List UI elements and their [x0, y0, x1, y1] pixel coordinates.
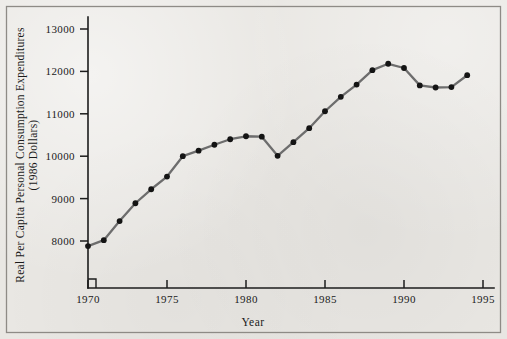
- data-point: [196, 148, 202, 154]
- x-axis-ticks: [88, 280, 483, 288]
- data-point: [306, 125, 312, 131]
- data-point: [133, 200, 139, 206]
- data-point: [338, 94, 344, 100]
- y-tick-label: 11000: [46, 108, 75, 120]
- data-point: [385, 61, 391, 67]
- data-point: [212, 142, 218, 148]
- x-tick-label: 1995: [471, 293, 495, 305]
- y-axis-ticks: [80, 29, 88, 241]
- y-axis-tick-labels: 8000900010000110001200013000: [46, 23, 76, 247]
- svg-text:(1986 Dollars): (1986 Dollars): [27, 120, 40, 191]
- data-point: [401, 65, 407, 71]
- data-point: [164, 174, 170, 180]
- data-point: [180, 153, 186, 159]
- svg-text:Real Per Capita Personal Consu: Real Per Capita Personal Consumption Exp…: [14, 27, 27, 283]
- axis-break-symbol: [88, 279, 96, 288]
- data-point: [417, 82, 423, 88]
- y-tick-label: 13000: [46, 23, 76, 35]
- data-point: [243, 133, 249, 139]
- data-point: [433, 85, 439, 91]
- y-tick-label: 8000: [51, 235, 75, 247]
- data-point: [354, 82, 360, 88]
- data-point: [322, 108, 328, 114]
- y-tick-label: 9000: [51, 193, 75, 205]
- x-axis-tick-labels: 197019751980198519901995: [76, 293, 495, 305]
- data-point: [464, 72, 470, 78]
- data-point: [259, 134, 265, 140]
- data-point: [117, 218, 123, 224]
- x-tick-label: 1970: [76, 293, 100, 305]
- data-point: [148, 186, 154, 192]
- data-point: [275, 153, 281, 159]
- data-point: [370, 67, 376, 73]
- y-tick-label: 12000: [46, 65, 76, 77]
- data-point: [85, 243, 91, 249]
- x-tick-label: 1985: [313, 293, 337, 305]
- x-tick-label: 1975: [155, 293, 179, 305]
- line-chart: 8000900010000110001200013000 19701975198…: [0, 0, 507, 339]
- x-tick-label: 1980: [234, 293, 258, 305]
- figure-container: 8000900010000110001200013000 19701975198…: [0, 0, 507, 339]
- data-series-markers: [85, 61, 470, 249]
- y-tick-label: 10000: [46, 150, 76, 162]
- x-axis-title: Year: [241, 316, 264, 328]
- figure-frame: [7, 7, 501, 333]
- x-tick-label: 1990: [392, 293, 416, 305]
- data-point: [449, 84, 455, 90]
- data-point: [291, 139, 297, 145]
- data-point: [101, 237, 107, 243]
- y-axis-title: Real Per Capita Personal Consumption Exp…: [14, 27, 40, 283]
- data-point: [227, 136, 233, 142]
